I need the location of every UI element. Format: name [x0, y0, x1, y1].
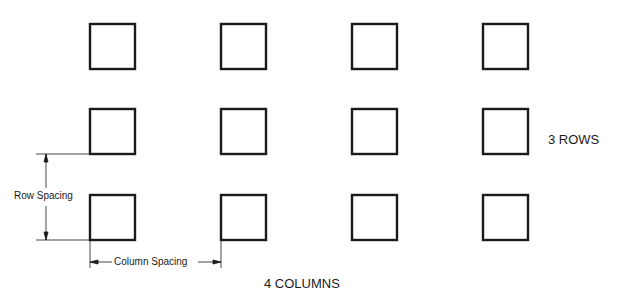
arrow-left-icon: [90, 260, 98, 264]
square-r3-c4: [483, 195, 528, 240]
square-r1-c4: [483, 24, 528, 69]
square-r1-c2: [221, 24, 266, 69]
square-r2-c2: [221, 109, 266, 154]
square-r3-c2: [221, 195, 266, 240]
square-grid: [90, 24, 528, 240]
square-r2-c3: [352, 109, 397, 154]
square-r2-c1: [90, 109, 135, 154]
square-r2-c4: [483, 109, 528, 154]
square-r3-c1: [90, 195, 135, 240]
dimension-lines: [36, 154, 221, 268]
square-r1-c1: [90, 24, 135, 69]
arrow-up-icon: [44, 154, 48, 162]
square-r3-c3: [352, 195, 397, 240]
square-r1-c3: [352, 24, 397, 69]
rows-count-label: 3 ROWS: [548, 132, 599, 147]
row-spacing-label: Row Spacing: [14, 190, 73, 201]
array-diagram: [0, 0, 625, 294]
column-spacing-label: Column Spacing: [114, 256, 187, 267]
arrow-right-icon: [213, 260, 221, 264]
arrow-down-icon: [44, 232, 48, 240]
columns-count-label: 4 COLUMNS: [264, 276, 340, 291]
